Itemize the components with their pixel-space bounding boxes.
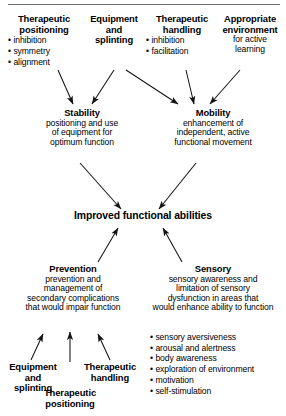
node-sub-line: optimum function xyxy=(22,138,142,148)
node-sub-line: functional movement xyxy=(148,138,278,148)
arrow-sensory-to-center xyxy=(163,228,182,262)
node-appropriate-environment: Appropriate environment for active learn… xyxy=(214,14,286,54)
node-therapeutic-handling-bottom: Therapeutic handling xyxy=(76,362,144,383)
node-heading-line: splinting xyxy=(80,35,148,46)
node-heading-line: Therapeutic xyxy=(76,362,144,373)
node-prevention: Prevention prevention and management of … xyxy=(2,264,144,313)
node-mobility: Mobility enhancement of independent, act… xyxy=(148,108,278,147)
node-heading-line: Appropriate xyxy=(214,14,286,25)
node-heading-line: Therapeutic xyxy=(8,14,80,25)
node-heading-line: Therapeutic xyxy=(32,388,108,399)
list-item: body awareness xyxy=(150,353,286,364)
sensory-bullet-list: sensory aversiveness arousal and alertne… xyxy=(150,332,286,396)
node-equipment-and-splinting: Equipment and splinting xyxy=(80,14,148,46)
arrow-prevention-to-center xyxy=(98,228,118,262)
node-stability: Stability positioning and use of equipme… xyxy=(22,108,142,147)
arrow-mobility-to-center xyxy=(159,163,196,209)
node-heading-line: Equipment xyxy=(80,14,148,25)
node-heading-line: positioning xyxy=(32,399,108,410)
node-improved-functional-abilities: Improved functional abilities xyxy=(33,210,253,222)
arrow-equipment-to-mobility xyxy=(126,70,178,104)
arrow-equipment-to-stability xyxy=(92,70,114,104)
list-item: inhibition xyxy=(146,35,188,46)
list-item: inhibition xyxy=(8,35,50,46)
list-item: exploration of environment xyxy=(150,364,286,375)
diagram-canvas: Therapeutic positioning inhibition symme… xyxy=(0,0,286,416)
node-heading: Prevention xyxy=(2,264,144,275)
node-heading-line: Equipment xyxy=(0,362,66,373)
list-item: motivation xyxy=(150,375,286,386)
node-heading-line: Therapeutic xyxy=(146,14,218,25)
arrow-positioning-to-stability xyxy=(58,70,73,104)
list-item: self-stimulation xyxy=(150,386,286,397)
top-divider-rule xyxy=(8,4,280,5)
node-bullet-list: inhibition symmetry alignment xyxy=(8,35,80,67)
list-item: alignment xyxy=(8,57,50,68)
node-therapeutic-handling: Therapeutic handling inhibition facilita… xyxy=(146,14,218,57)
node-heading: Mobility xyxy=(148,108,278,119)
node-heading: Sensory xyxy=(140,264,286,275)
node-therapeutic-positioning-bottom: Therapeutic positioning xyxy=(32,388,108,409)
node-heading-line: positioning xyxy=(8,25,80,36)
list-item: sensory aversiveness xyxy=(150,332,286,343)
node-heading-line: handling xyxy=(146,25,218,36)
list-item: symmetry xyxy=(8,46,50,57)
node-sub-line: that would impair function xyxy=(2,303,144,313)
arrow-stability-to-center xyxy=(80,163,121,209)
node-heading-line: handling xyxy=(76,373,144,384)
node-bullet-list: inhibition facilitation xyxy=(146,35,218,56)
node-heading: Stability xyxy=(22,108,142,119)
node-sensory: Sensory sensory awareness and limitation… xyxy=(140,264,286,313)
node-therapeutic-positioning: Therapeutic positioning inhibition symme… xyxy=(8,14,80,67)
arrow-equipment-bottom-to-prevention xyxy=(31,334,43,360)
list-item: facilitation xyxy=(146,46,188,57)
arrow-handling-bottom-to-prevention xyxy=(98,334,110,360)
center-label-text: Improved functional abilities xyxy=(74,210,212,221)
arrow-environment-to-mobility xyxy=(210,70,240,104)
list-item: arousal and alertness xyxy=(150,343,286,354)
node-sub-line: learning xyxy=(214,45,286,55)
node-sub-line: would enhance ability to function xyxy=(140,303,286,313)
arrow-handling-to-mobility xyxy=(186,70,194,104)
